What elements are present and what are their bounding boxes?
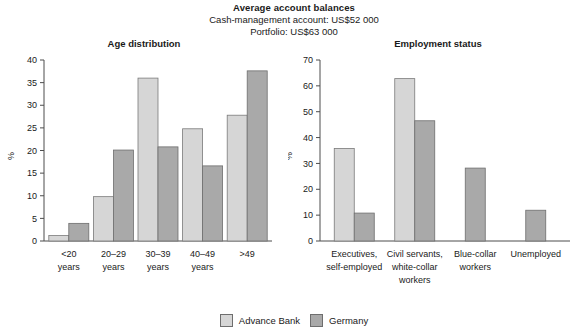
x-category-label: Blue-collar xyxy=(454,249,497,259)
bar-germany xyxy=(69,223,89,241)
bar-germany xyxy=(465,168,485,241)
bar-germany xyxy=(203,166,223,241)
x-category-label: 20–29 xyxy=(101,249,126,259)
legend: Advance Bank Germany xyxy=(0,314,588,327)
bar-advance-bank xyxy=(183,129,203,241)
y-axis-title: % xyxy=(288,152,294,160)
y-tick-label: 60 xyxy=(303,81,313,91)
chart-panel-employment-status: Employment status 010203040506070%Execut… xyxy=(288,38,588,296)
chart-panel-age-distribution: Age distribution 0510152025303540%<20yea… xyxy=(0,38,288,296)
plot-area-age-distribution: 0510152025303540%<20years20–29years30–39… xyxy=(0,38,288,296)
legend-label-germany: Germany xyxy=(329,315,368,326)
y-tick-label: 30 xyxy=(27,100,37,110)
plot-area-employment-status: 010203040506070%Executives,self-employed… xyxy=(288,38,588,296)
x-category-label: Executives, xyxy=(331,249,377,259)
x-category-label: white-collar xyxy=(391,262,438,272)
y-tick-label: 40 xyxy=(303,133,313,143)
x-category-label: <20 xyxy=(61,249,76,259)
bar-germany xyxy=(415,121,435,241)
x-category-label: years xyxy=(58,262,81,272)
y-tick-label: 20 xyxy=(303,184,313,194)
figure-header: Average account balances Cash-management… xyxy=(0,0,588,38)
bar-advance-bank xyxy=(227,115,247,241)
charts-container: Age distribution 0510152025303540%<20yea… xyxy=(0,38,588,296)
bar-advance-bank xyxy=(334,148,354,241)
y-tick-label: 40 xyxy=(27,55,37,65)
x-category-label: years xyxy=(102,262,125,272)
y-tick-label: 15 xyxy=(27,168,37,178)
bar-advance-bank xyxy=(138,78,158,241)
figure-subtitle-cash-management: Cash-management account: US$52 000 xyxy=(0,14,588,26)
x-category-label: Unemployed xyxy=(510,249,561,259)
y-tick-label: 5 xyxy=(32,214,37,224)
y-tick-label: 30 xyxy=(303,159,313,169)
y-tick-label: 0 xyxy=(308,236,313,246)
figure-title: Average account balances xyxy=(0,2,588,14)
bar-germany xyxy=(247,71,267,241)
employment-status-svg: 010203040506070%Executives,self-employed… xyxy=(288,38,588,296)
x-category-label: years xyxy=(192,262,215,272)
y-tick-label: 10 xyxy=(27,191,37,201)
y-tick-label: 50 xyxy=(303,107,313,117)
x-category-label: 30–39 xyxy=(145,249,170,259)
age-distribution-svg: 0510152025303540%<20years20–29years30–39… xyxy=(0,38,288,296)
legend-swatch-light-icon xyxy=(220,314,233,327)
bar-germany xyxy=(113,150,133,241)
y-tick-label: 35 xyxy=(27,78,37,88)
bar-germany xyxy=(354,213,374,241)
x-category-label: 40–49 xyxy=(190,249,215,259)
legend-label-advance-bank: Advance Bank xyxy=(239,315,300,326)
x-category-label: years xyxy=(147,262,170,272)
x-category-label: >49 xyxy=(240,249,255,259)
bar-advance-bank xyxy=(395,79,415,241)
y-tick-label: 0 xyxy=(32,236,37,246)
figure-subtitle-portfolio: Portfolio: US$63 000 xyxy=(0,26,588,38)
legend-item-germany: Germany xyxy=(310,314,368,327)
legend-swatch-dark-icon xyxy=(310,314,323,327)
x-category-label: self-employed xyxy=(326,262,382,272)
x-category-label: workers xyxy=(458,262,491,272)
bar-germany xyxy=(158,147,178,241)
legend-item-advance-bank: Advance Bank xyxy=(220,314,300,327)
bar-advance-bank xyxy=(49,236,69,241)
y-tick-label: 25 xyxy=(27,123,37,133)
y-axis-title: % xyxy=(6,152,16,160)
y-tick-label: 20 xyxy=(27,146,37,156)
bar-advance-bank xyxy=(93,197,113,241)
bar-germany xyxy=(526,210,546,241)
x-category-label: workers xyxy=(398,275,431,285)
y-tick-label: 70 xyxy=(303,55,313,65)
y-tick-label: 10 xyxy=(303,210,313,220)
x-category-label: Civil servants, xyxy=(387,249,443,259)
